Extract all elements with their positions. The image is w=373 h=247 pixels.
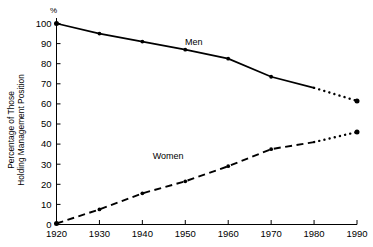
data-point [183,48,187,52]
data-point [269,75,273,79]
data-point [140,191,144,195]
x-tick-label: 1920 [46,228,67,239]
series-women [54,130,360,226]
axes [57,18,358,225]
data-point [226,57,230,61]
series-projection-men [314,88,357,101]
series-annotation-men: Men [185,37,203,47]
data-point [183,179,187,183]
data-point [355,98,360,103]
x-axis-ticks: 19201930194019501960197019801990 [46,220,368,239]
y-tick-label: 30 [41,159,52,170]
y-axis-unit-label: % [50,6,57,15]
x-tick-label: 1940 [132,228,153,239]
y-tick-label: 40 [41,138,52,149]
x-tick-label: 1970 [261,228,282,239]
x-tick-label: 1960 [218,228,239,239]
y-axis-title-line-2: Holding Management Position [16,74,26,186]
y-tick-label: 90 [41,38,52,49]
chart-container: Percentage of Those Holding Management P… [0,0,373,247]
y-tick-label: 100 [36,18,52,29]
y-tick-label: 20 [41,179,52,190]
series-annotations: MenWomen [153,37,203,162]
y-tick-label: 10 [41,199,52,210]
y-tick-label: 70 [41,78,52,89]
y-tick-label: 50 [41,118,52,129]
x-tick-label: 1990 [346,228,367,239]
data-point [140,40,144,44]
y-tick-label: 60 [41,98,52,109]
data-point [98,32,102,36]
data-point [54,21,59,26]
y-tick-label: 80 [41,58,52,69]
x-tick-label: 1980 [304,228,325,239]
series-layer [54,21,360,226]
data-point [355,130,360,135]
data-point [98,208,102,212]
line-chart: Percentage of Those Holding Management P… [0,0,373,247]
x-tick-label: 1930 [89,228,110,239]
series-annotation-women: Women [153,151,184,161]
series-projection-women [314,132,357,142]
data-point [54,221,59,226]
y-axis-title-line-1: Percentage of Those [6,91,16,169]
series-men [54,21,360,103]
x-tick-label: 1950 [175,228,196,239]
data-point [269,147,273,151]
series-line-men [57,24,315,88]
data-point [226,164,230,168]
y-axis-title: Percentage of Those Holding Management P… [6,74,26,186]
